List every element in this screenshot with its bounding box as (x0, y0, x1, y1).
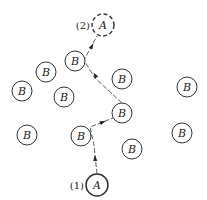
molecule-b-label: B (22, 129, 31, 142)
diagram-svg: A(1)A(2)BBBBBBBBBBB (0, 0, 207, 200)
molecule-b-label: B (17, 85, 26, 98)
molecule-b-label: B (127, 143, 136, 156)
arrow-icon (99, 119, 106, 125)
molecule-b-label: B (41, 66, 50, 79)
molecule-b-label: B (182, 81, 191, 94)
molecule-b-label: B (177, 127, 186, 140)
arrow-icon (92, 71, 98, 78)
collision-diagram: A(1)A(2)BBBBBBBBBBB (0, 0, 207, 200)
molecule-a-label: A (92, 179, 101, 192)
molecule-b-label: B (59, 91, 68, 104)
arrow-icon (93, 155, 98, 161)
position-tag: (2) (76, 20, 90, 31)
molecule-a-label: A (98, 19, 107, 32)
molecule-b-label: B (117, 107, 126, 120)
molecule-b-label: B (70, 55, 79, 68)
position-tag: (1) (70, 180, 84, 191)
molecule-b-label: B (117, 73, 126, 86)
molecule-b-label: B (76, 130, 85, 143)
